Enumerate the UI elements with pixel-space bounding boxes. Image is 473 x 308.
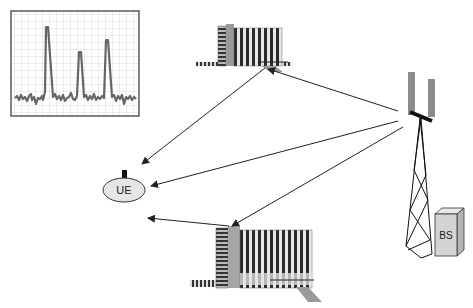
arrow-building-bottom-to-ue [148,218,229,226]
lattice-tower [406,118,432,258]
multipath-diagram: BS UE [0,0,473,308]
arrow-building-top-to-ue [142,68,265,164]
antenna-panel-right [428,79,435,117]
signal-paths [142,68,403,226]
building-top [196,24,291,72]
ue-label: UE [116,184,131,196]
arrow-antenna-to-building-top [268,69,398,111]
antenna-tower [406,72,435,258]
spectrum-plot [11,11,139,116]
antenna-panel-left [408,72,415,115]
arrow-antenna-to-ue [151,121,398,186]
ue-node: UE [103,170,145,202]
bs-label: BS [439,230,453,241]
bs-box: BS [435,208,464,256]
building-bottom [190,226,322,302]
